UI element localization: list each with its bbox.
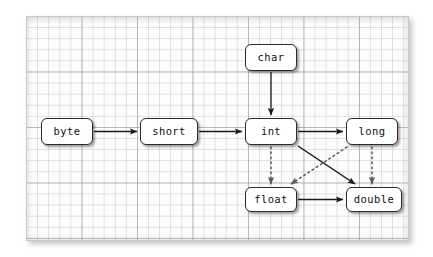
node-short[interactable]: short: [140, 118, 198, 145]
node-int[interactable]: int: [245, 118, 297, 145]
node-float-label: float: [254, 194, 288, 205]
node-byte-label: byte: [54, 126, 81, 137]
node-char-label: char: [258, 52, 285, 63]
node-char[interactable]: char: [245, 44, 297, 71]
diagram-canvas: byte short char int long float double: [0, 0, 433, 257]
node-long[interactable]: long: [346, 118, 398, 145]
node-double[interactable]: double: [346, 187, 402, 212]
node-float[interactable]: float: [245, 187, 297, 212]
node-byte[interactable]: byte: [41, 118, 93, 145]
node-int-label: int: [261, 126, 281, 137]
node-double-label: double: [354, 194, 394, 205]
node-long-label: long: [359, 126, 386, 137]
node-short-label: short: [152, 126, 186, 137]
